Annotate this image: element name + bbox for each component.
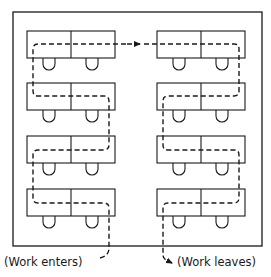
chair-icon — [173, 216, 185, 228]
room-outline — [13, 12, 262, 246]
chair-icon — [86, 58, 98, 70]
desk-pair-left-2 — [27, 83, 115, 122]
chair-icon — [173, 58, 185, 70]
right-desk-column — [157, 31, 245, 228]
chair-icon — [216, 110, 228, 122]
chair-icon — [173, 110, 185, 122]
work-leaves-label: (Work leaves) — [177, 255, 256, 269]
chair-icon — [173, 163, 185, 175]
chair-icon — [216, 216, 228, 228]
office-workflow-diagram: (Work enters) (Work leaves) — [0, 0, 271, 277]
chair-icon — [86, 163, 98, 175]
desk-pair-left-3 — [27, 136, 115, 175]
workflow-path-left — [33, 44, 127, 258]
chair-icon — [86, 216, 98, 228]
desk-pair-right-3 — [157, 136, 245, 175]
desk-pair-right-2 — [157, 83, 245, 122]
chair-icon — [216, 58, 228, 70]
workflow-path — [33, 44, 239, 263]
left-desk-column — [27, 31, 115, 228]
desk-pair-left-1 — [27, 31, 115, 70]
chair-icon — [216, 163, 228, 175]
workflow-path-right — [144, 44, 239, 261]
chair-icon — [43, 58, 55, 70]
chair-icon — [43, 163, 55, 175]
work-enters-label: (Work enters) — [4, 255, 82, 269]
exit-arrow — [168, 261, 172, 263]
desk-pair-right-1 — [157, 31, 245, 70]
chair-icon — [43, 216, 55, 228]
desk-pair-left-4 — [27, 189, 115, 228]
chair-icon — [43, 110, 55, 122]
chair-icon — [86, 110, 98, 122]
desk-pair-right-4 — [157, 189, 245, 228]
